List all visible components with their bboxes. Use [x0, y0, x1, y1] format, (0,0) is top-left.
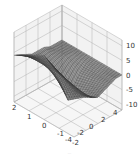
surface-plot-3d: -4-2024 -2-1012 -10-50510: [0, 0, 139, 161]
figure-caption: ...: [0, 150, 139, 155]
z-tick-label: -10: [126, 101, 137, 109]
z-tick-label: 0: [126, 72, 130, 80]
x-tick-label: -2: [77, 129, 84, 137]
x-tick-label: 4: [113, 109, 118, 117]
x-tick-label: 2: [101, 116, 105, 124]
z-tick-label: 5: [126, 57, 130, 65]
y-tick-label: 0: [42, 122, 46, 130]
z-tick-label: 10: [126, 42, 135, 50]
y-tick-label: -1: [57, 130, 64, 138]
y-tick-label: -2: [72, 139, 79, 147]
y-tick-label: 1: [27, 113, 31, 121]
y-tick-label: 2: [12, 104, 16, 112]
z-axis-ticks: -10-50510: [126, 42, 137, 108]
z-tick-label: -5: [126, 86, 133, 94]
x-tick-label: 0: [89, 123, 93, 131]
